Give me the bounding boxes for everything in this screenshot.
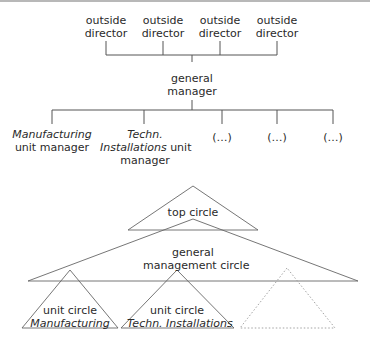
director-label: director xyxy=(198,27,242,40)
general-management-circle-label: general management circle xyxy=(143,246,243,272)
director-label: director xyxy=(84,27,128,40)
unit-circle-manufacturing-label: unit circle Manufacturing xyxy=(30,304,110,330)
gmc-label: general xyxy=(143,246,243,259)
placeholder-unit-triangle xyxy=(240,268,335,328)
director-2: outside director xyxy=(141,14,185,40)
director-label: outside xyxy=(84,14,128,27)
director-label: director xyxy=(255,27,299,40)
unit-placeholder-1: (…) xyxy=(207,131,237,144)
director-label: outside xyxy=(141,14,185,27)
unit-label: Techn. xyxy=(100,128,190,141)
gm-label: manager xyxy=(162,85,222,98)
top-circle-label: top circle xyxy=(163,206,223,219)
general-manager: general manager xyxy=(162,72,222,98)
diagram-lines xyxy=(0,0,370,339)
unit-circle-techn-label: unit circle Techn. Installations xyxy=(127,304,227,330)
uc-label: Manufacturing xyxy=(30,317,110,330)
uc-label: unit circle xyxy=(127,304,227,317)
director-1: outside director xyxy=(84,14,128,40)
unit-techn-installations: Techn. Installations unit manager xyxy=(100,128,190,167)
unit-label: Installations xyxy=(100,141,167,154)
unit-placeholder-3: (…) xyxy=(318,131,348,144)
unit-manufacturing: Manufacturing unit manager xyxy=(10,128,94,154)
director-4: outside director xyxy=(255,14,299,40)
gmc-label: management circle xyxy=(143,259,243,272)
director-label: outside xyxy=(255,14,299,27)
unit-label: unit manager xyxy=(10,141,94,154)
director-3: outside director xyxy=(198,14,242,40)
gm-label: general xyxy=(162,72,222,85)
unit-label: unit xyxy=(167,141,192,154)
director-label: outside xyxy=(198,14,242,27)
unit-label: Manufacturing xyxy=(10,128,94,141)
uc-label: Techn. Installations xyxy=(127,317,227,330)
unit-label: manager xyxy=(100,154,190,167)
unit-placeholder-2: (…) xyxy=(262,131,292,144)
uc-label: unit circle xyxy=(30,304,110,317)
director-label: director xyxy=(141,27,185,40)
